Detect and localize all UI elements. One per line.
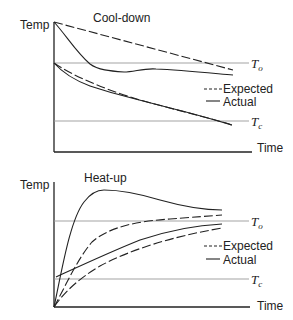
heatup-expected-curve-lower — [54, 228, 222, 307]
heatup-expected-curve-upper — [54, 215, 222, 307]
heatup-tc-label: Tc — [251, 272, 262, 289]
heatup-actual-curve-lower — [56, 224, 222, 277]
cooldown-to-label: To — [251, 56, 263, 73]
cooldown-tc-label: Tc — [251, 114, 262, 131]
temperature-profile-diagram: Temp Cool-down Time To Tc Expected Actua… — [0, 0, 293, 320]
cooldown-title: Cool-down — [93, 11, 150, 25]
legend-actual-label: Actual — [223, 253, 256, 267]
legend-actual-label: Actual — [223, 95, 256, 109]
heatup-to-label: To — [251, 214, 263, 231]
heatup-legend: Expected Actual — [204, 239, 273, 267]
cooldown-actual-curve-upper — [54, 22, 233, 75]
legend-expected-label: Expected — [223, 239, 273, 253]
cooldown-panel: Temp Cool-down Time To Tc Expected Actua… — [20, 11, 284, 155]
cooldown-legend: Expected Actual — [204, 82, 273, 109]
heatup-title: Heat-up — [84, 171, 127, 185]
heatup-y-axis-label: Temp — [20, 178, 50, 192]
heatup-x-axis-label: Time — [257, 299, 284, 313]
heatup-panel: Temp Heat-up Time To Tc Expected Actual — [20, 171, 284, 313]
cooldown-x-axis-label: Time — [257, 141, 284, 155]
legend-expected-label: Expected — [223, 82, 273, 96]
cooldown-y-axis-label: Temp — [20, 18, 50, 32]
heatup-actual-curve-upper — [54, 190, 222, 307]
